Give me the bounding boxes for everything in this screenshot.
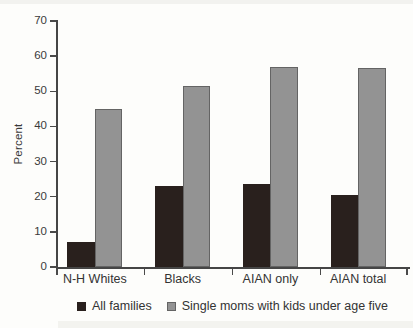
x-category-label-aian-only: AIAN only — [243, 273, 299, 287]
y-axis-line — [56, 20, 58, 268]
bar-single-moms-with-kids-under-age-five-blacks — [183, 86, 211, 267]
legend-item-all-families: All families — [77, 300, 152, 313]
y-tick-mark — [50, 55, 56, 56]
scan-artifact-bottom — [58, 321, 413, 328]
legend-item-single-moms-with-kids-under-age-five: Single moms with kids under age five — [167, 300, 388, 313]
bar-all-families-blacks — [155, 186, 183, 267]
legend-swatch-icon — [77, 302, 86, 311]
legend-label: Single moms with kids under age five — [182, 300, 388, 313]
x-category-label-blacks: Blacks — [164, 273, 201, 287]
legend-swatch-icon — [167, 302, 176, 311]
x-category-label-n-h-whites: N-H Whites — [63, 273, 127, 287]
scan-artifact-top — [0, 0, 413, 4]
x-category-label-aian-total: AIAN total — [330, 273, 386, 287]
y-tick-label: 70 — [15, 15, 47, 27]
y-tick-label: 0 — [15, 261, 47, 273]
y-tick-mark — [50, 161, 56, 162]
y-tick-mark — [50, 196, 56, 197]
bar-all-families-aian-only — [243, 184, 271, 267]
y-tick-mark — [50, 266, 56, 267]
y-tick-mark — [50, 20, 56, 21]
legend: All familiesSingle moms with kids under … — [57, 300, 408, 313]
bar-single-moms-with-kids-under-age-five-aian-only — [270, 67, 298, 267]
y-tick-label: 10 — [15, 226, 47, 238]
y-tick-label: 40 — [15, 121, 47, 133]
bar-all-families-n-h-whites — [67, 242, 95, 267]
bar-chart-figure: Percent 010203040506070 N-H WhitesBlacks… — [0, 0, 413, 328]
y-tick-label: 20 — [15, 191, 47, 203]
y-tick-label: 50 — [15, 86, 47, 98]
y-tick-mark — [50, 126, 56, 127]
y-tick-label: 30 — [15, 156, 47, 168]
bar-single-moms-with-kids-under-age-five-n-h-whites — [95, 109, 123, 267]
plot-area: 010203040506070 — [57, 21, 408, 267]
y-tick-label: 60 — [15, 50, 47, 62]
y-tick-mark — [50, 231, 56, 232]
y-tick-mark — [50, 91, 56, 92]
legend-label: All families — [92, 300, 152, 313]
x-axis-labels: N-H WhitesBlacksAIAN onlyAIAN total — [57, 273, 408, 289]
bar-all-families-aian-total — [331, 195, 359, 267]
bar-single-moms-with-kids-under-age-five-aian-total — [358, 68, 386, 267]
